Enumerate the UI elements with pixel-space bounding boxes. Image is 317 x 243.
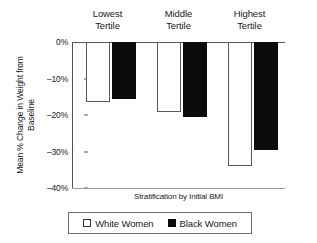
legend-swatch-black xyxy=(168,219,176,227)
category-header-line1: Lowest xyxy=(93,8,123,19)
bar-black-women-2 xyxy=(254,42,278,150)
bar-white-women-0 xyxy=(86,42,110,102)
y-axis-ticks: 0%–10%–20%–30%–40% xyxy=(18,0,68,243)
bar-black-women-0 xyxy=(112,42,136,99)
legend-label: Black Women xyxy=(180,218,237,229)
legend-entry-black-women: Black Women xyxy=(168,218,237,229)
category-header-line2: Tertile xyxy=(72,20,143,32)
legend-swatch-white xyxy=(83,219,91,227)
bar-white-women-1 xyxy=(157,42,181,112)
chart-legend: White WomenBlack Women xyxy=(68,212,252,234)
legend-label: White Women xyxy=(95,218,153,229)
category-header-0: LowestTertile xyxy=(72,8,143,32)
category-header-1: MiddleTertile xyxy=(143,8,214,32)
y-tick-label: –30% xyxy=(22,147,68,156)
bar-black-women-1 xyxy=(183,42,207,117)
x-axis-label: Stratification by Initial BMI xyxy=(72,192,285,201)
y-tick-label: 0% xyxy=(22,38,68,47)
y-tick-label: –20% xyxy=(22,111,68,120)
bar-white-women-2 xyxy=(228,42,252,166)
legend-entry-white-women: White Women xyxy=(83,218,153,229)
category-header-line2: Tertile xyxy=(214,20,285,32)
category-header-line1: Highest xyxy=(234,8,266,19)
plot-area xyxy=(72,42,285,188)
category-header-line1: Middle xyxy=(165,8,192,19)
y-tick-label: –10% xyxy=(22,74,68,83)
category-header-line2: Tertile xyxy=(143,20,214,32)
category-header-2: HighestTertile xyxy=(214,8,285,32)
bar-chart-figure: Mean % Change in Weight from Baseline 0%… xyxy=(0,0,317,243)
y-tick-label: –40% xyxy=(22,184,68,193)
